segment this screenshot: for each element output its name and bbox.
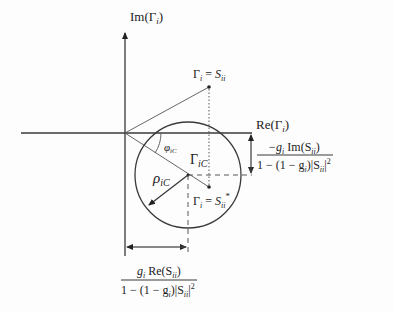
angle-label: φiC [164, 141, 177, 155]
real-axis-label: Re(Γi) [256, 117, 289, 134]
vertical-formula-denominator: 1 − (1 − gi)|Sii|2 [257, 157, 331, 174]
horizontal-formula-numerator: gi Re(Sii) [137, 264, 181, 280]
sii-conjugate-label: Γi = Sii* [193, 191, 230, 210]
sii-point [207, 85, 211, 89]
circle-center-label: ΓiC [190, 152, 208, 169]
sii-conjugate-point [207, 185, 211, 189]
horizontal-formula-denominator: 1 − (1 − gi)|Sii|2 [121, 282, 195, 299]
vertical-formula-numerator: −gi Im(Sii) [268, 140, 320, 156]
imaginary-axis-label: Im(Γi) [130, 9, 163, 26]
sii-point-label: Γi = Sii [193, 67, 225, 83]
vertical-offset-formula: −gi Im(Sii) 1 − (1 − gi)|Sii|2 [257, 140, 333, 174]
constant-gain-circle-diagram: Im(Γi) Re(Γi) Γi = Sii Γi = Sii* ΓiC ρiC… [0, 0, 394, 313]
angle-arc [155, 133, 161, 153]
horizontal-offset-formula: gi Re(Sii) 1 − (1 − gi)|Sii|2 [121, 264, 197, 299]
radius-label: ρiC [152, 170, 170, 188]
